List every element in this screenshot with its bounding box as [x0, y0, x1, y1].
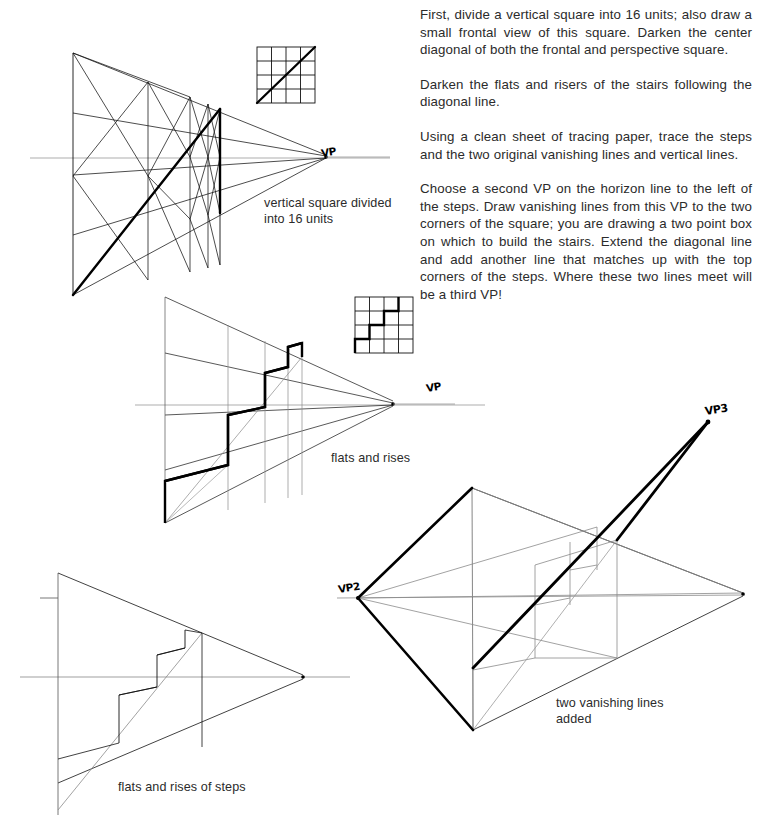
- vp3-marker: [706, 420, 711, 425]
- inset-frontal-square-diagonal: [255, 45, 319, 107]
- vp-label-fig2: VP: [425, 380, 442, 394]
- instruction-paragraph-2: Darken the flats and risers of the stair…: [420, 76, 752, 111]
- step-flat-2: [119, 687, 157, 695]
- vanishing-line-h2: [73, 158, 326, 175]
- instruction-paragraph-3: Using a clean sheet of tracing paper, tr…: [420, 128, 752, 163]
- construction-diagonal-f: [148, 176, 190, 219]
- box-top-edge-right: [472, 488, 743, 593]
- vp2-marker: [356, 596, 360, 600]
- bold-center-diagonal: [73, 109, 220, 295]
- bold-box-edge-upper-left: [358, 488, 472, 598]
- vp1-marker: [741, 592, 745, 596]
- inset-frontal-square-staircase: [353, 295, 417, 357]
- construction-line-r: [73, 53, 190, 97]
- light-diagonal: [165, 357, 302, 523]
- construction-diagonal-d: [148, 82, 190, 157]
- construction-diagonal-b: [73, 82, 148, 176]
- step-flat-extend-1: [58, 743, 119, 759]
- bold-top-corner-line-to-vp3: [617, 422, 708, 540]
- vp2-line-lower: [358, 598, 617, 658]
- construction-diagonal-q: [208, 215, 220, 265]
- bold-staircase-path: [165, 343, 302, 523]
- caption-figure-3: flats and rises of steps: [118, 780, 246, 796]
- step-flat-3: [157, 648, 185, 655]
- construction-diagonal-a: [73, 53, 148, 176]
- figure-vertical-square-16-units: [30, 35, 390, 325]
- vanishing-point-marker: [301, 675, 305, 679]
- vp-label-fig1: VP: [320, 145, 337, 159]
- bold-box-edge-lower-left: [358, 598, 473, 730]
- construction-diagonal-e: [148, 97, 190, 176]
- figure-two-vanishing-lines-added: [325, 400, 745, 750]
- traced-step-outline: [119, 630, 185, 743]
- instruction-paragraph-1: First, divide a vertical square into 16 …: [420, 6, 752, 59]
- figure-flats-and-rises-of-steps: [20, 565, 350, 815]
- instructions-column: First, divide a vertical square into 16 …: [420, 6, 752, 303]
- vanishing-line-h1: [165, 353, 393, 403]
- caption-figure-4: two vanishing lines added: [556, 696, 664, 727]
- vanishing-line-bottom: [58, 679, 303, 783]
- tutorial-page: First, divide a vertical square into 16 …: [0, 0, 757, 837]
- caption-figure-1: vertical square divided into 16 units: [264, 196, 392, 227]
- construction-diagonal-c: [73, 176, 148, 280]
- step-flat-3: [570, 565, 597, 570]
